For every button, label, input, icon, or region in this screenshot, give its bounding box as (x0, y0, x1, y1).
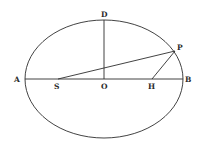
label-d: D (101, 10, 108, 19)
label-s: S (54, 82, 59, 91)
label-b: B (185, 75, 191, 84)
label-p: P (177, 43, 183, 52)
label-h: H (148, 82, 155, 91)
ellipse-diagram: A B D S O H P (0, 0, 200, 147)
line-sp (58, 51, 175, 79)
line-hp (152, 51, 175, 79)
label-o: O (101, 82, 108, 91)
label-a: A (13, 75, 20, 84)
